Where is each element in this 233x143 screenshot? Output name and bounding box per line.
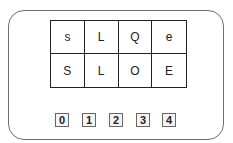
- grid-cell: O: [119, 54, 153, 87]
- answer-button-0[interactable]: 0: [55, 113, 69, 127]
- answer-button-3[interactable]: 3: [136, 113, 150, 127]
- grid-cell: E: [152, 54, 186, 87]
- grid-cell: Q: [119, 21, 153, 54]
- answer-button-4[interactable]: 4: [162, 113, 176, 127]
- grid-cell: L: [85, 21, 119, 54]
- grid-cell: S: [51, 54, 85, 87]
- answer-button-2[interactable]: 2: [109, 113, 123, 127]
- grid-cell: e: [152, 21, 186, 54]
- grid-cell: L: [85, 54, 119, 87]
- grid-cell: s: [51, 21, 85, 54]
- answer-button-1[interactable]: 1: [82, 113, 96, 127]
- letter-grid: s L Q e S L O E: [50, 20, 187, 88]
